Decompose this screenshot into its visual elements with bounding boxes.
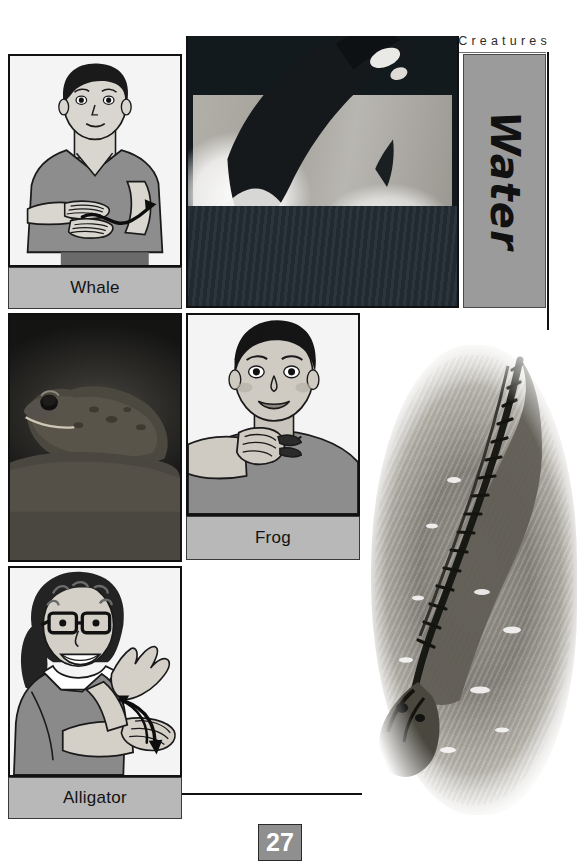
frog-silhouette xyxy=(10,315,180,560)
sign-language-illustration-frog xyxy=(188,315,358,514)
frog-label-text: Frog xyxy=(255,528,291,548)
alligator-silhouette xyxy=(362,330,586,830)
sign-language-illustration-alligator xyxy=(10,568,180,775)
page-number-text: 27 xyxy=(266,828,294,857)
whale-label: Whale xyxy=(8,267,182,309)
workbook-page: Pets, Animals & Creatures xyxy=(0,0,586,867)
whale-label-text: Whale xyxy=(70,278,120,298)
page-number: 27 xyxy=(258,824,302,861)
section-tab-water: Water xyxy=(463,54,546,308)
sign-language-illustration-whale xyxy=(10,56,180,265)
alligator-photo-panel xyxy=(362,330,586,830)
whale-photo-panel xyxy=(186,36,459,308)
alligator-label: Alligator xyxy=(8,777,182,819)
photo-orca-whale-breaching xyxy=(188,36,457,306)
photo-frog-on-rock xyxy=(10,315,180,560)
frog-sign-illustration-panel xyxy=(186,313,360,516)
photo-alligator-in-water xyxy=(362,330,586,830)
frog-label: Frog xyxy=(186,516,360,560)
frog-photo-panel xyxy=(8,313,182,562)
section-tab-label: Water xyxy=(482,111,528,250)
alligator-label-text: Alligator xyxy=(63,788,127,808)
water-surface xyxy=(188,206,457,306)
whale-sign-illustration-panel xyxy=(8,54,182,267)
alligator-sign-illustration-panel xyxy=(8,566,182,777)
